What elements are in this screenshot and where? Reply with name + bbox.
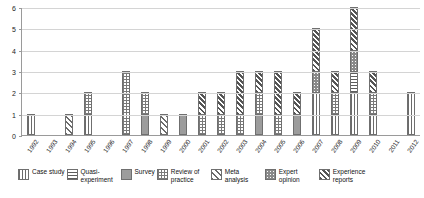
bar-segment: [236, 114, 244, 135]
y-axis: 0123456: [0, 0, 18, 140]
legend-swatch-icon: [265, 169, 276, 180]
bar-segment: [312, 71, 320, 92]
x-tick-label: 1994: [64, 138, 78, 154]
bar-segment: [350, 50, 358, 71]
x-tick-label: 1993: [45, 138, 59, 154]
x-tick-label: 2001: [197, 138, 211, 154]
legend-item-case-study[interactable]: Case study: [18, 168, 65, 180]
chart-legend: Case studyQuasi-experimentSurveyReview o…: [18, 168, 418, 194]
x-tick-label: 1998: [140, 138, 154, 154]
bar-segment: [350, 71, 358, 92]
y-tickmark: [19, 29, 22, 30]
x-tick-label: 2006: [291, 138, 305, 154]
legend-item-experience-reports[interactable]: Experience reports: [319, 168, 377, 183]
x-tick-label: 2011: [387, 138, 401, 153]
legend-item-quasi-experiment[interactable]: Quasi-experiment: [67, 168, 119, 183]
y-tick-label: 6: [12, 5, 16, 12]
bar-segment: [274, 114, 282, 135]
x-tick-label: 1992: [26, 138, 40, 154]
bar-segment: [217, 92, 225, 113]
bar-segment: [141, 92, 149, 113]
y-tickmark: [19, 115, 22, 116]
x-tick-label: 2002: [216, 138, 230, 154]
x-tick-label: 2000: [178, 138, 192, 154]
bar-segment: [369, 114, 377, 135]
bar-stack[interactable]: [122, 71, 130, 135]
gridline: [22, 51, 420, 52]
bar-segment: [122, 71, 130, 135]
bar-segment: [293, 114, 301, 135]
legend-label: Case study: [32, 168, 65, 176]
bar-stack[interactable]: [65, 114, 73, 135]
bar-stack[interactable]: [274, 71, 282, 135]
x-tick-label: 2007: [310, 138, 324, 154]
bar-segment: [141, 114, 149, 135]
x-tick-label: 2012: [405, 138, 419, 154]
legend-item-review-of-practice[interactable]: Review of practice: [157, 168, 209, 183]
bar-segment: [293, 92, 301, 113]
x-tick-label: 1996: [102, 138, 116, 154]
bar-stack[interactable]: [160, 114, 168, 135]
gridline: [22, 8, 420, 9]
bar-stack[interactable]: [27, 114, 35, 135]
bar-segment: [65, 114, 73, 135]
bar-segment: [331, 92, 339, 113]
y-tick-label: 1: [12, 111, 16, 118]
y-tick-label: 2: [12, 90, 16, 97]
bar-segment: [84, 92, 92, 113]
gridline: [22, 72, 420, 73]
bar-segment: [179, 114, 187, 135]
stacked-bar-chart: 0123456 19921993199419951996199719981999…: [0, 0, 424, 198]
x-tick-label: 1997: [121, 138, 135, 154]
bar-segment: [255, 92, 263, 113]
bar-stack[interactable]: [236, 71, 244, 135]
legend-item-meta-analysis[interactable]: Meta analysis: [211, 168, 263, 183]
bar-segment: [255, 71, 263, 92]
bar-segment: [255, 114, 263, 135]
legend-swatch-icon: [67, 169, 78, 180]
bar-segment: [198, 114, 206, 135]
x-tick-label: 2010: [367, 138, 381, 154]
x-tick-label: 2004: [254, 138, 268, 154]
legend-swatch-icon: [157, 169, 168, 180]
x-tick-label: 2008: [329, 138, 343, 154]
y-tickmark: [19, 72, 22, 73]
legend-swatch-icon: [211, 169, 222, 180]
legend-item-survey[interactable]: Survey: [121, 168, 155, 180]
legend-swatch-icon: [121, 169, 132, 180]
x-tick-label: 1999: [159, 138, 173, 154]
legend-label: Meta analysis: [225, 168, 263, 183]
plot-area: 0123456 19921993199419951996199719981999…: [0, 0, 424, 150]
bar-stack[interactable]: [179, 114, 187, 135]
legend-label: Expert opinion: [279, 168, 317, 183]
bar-stack[interactable]: [369, 71, 377, 135]
legend-label: Quasi-experiment: [81, 168, 119, 183]
bar-stack[interactable]: [312, 28, 320, 135]
bar-segment: [27, 114, 35, 135]
legend-swatch-icon: [18, 169, 29, 180]
bar-segment: [331, 71, 339, 92]
legend-label: Survey: [135, 168, 155, 176]
x-tick-label: 1995: [83, 138, 97, 154]
x-axis: 1992199319941995199619971998199920002001…: [0, 138, 424, 172]
y-tickmark: [19, 8, 22, 9]
bar-segment: [369, 92, 377, 113]
y-tickmark: [19, 93, 22, 94]
x-tick-label: 2003: [235, 138, 249, 154]
gridline: [22, 115, 420, 116]
bar-segment: [369, 71, 377, 92]
gridline: [22, 29, 420, 30]
bar-stack[interactable]: [331, 71, 339, 135]
legend-item-expert-opinion[interactable]: Expert opinion: [265, 168, 317, 183]
y-tick-label: 5: [12, 26, 16, 33]
y-tick-label: 3: [12, 69, 16, 76]
bar-segment: [160, 114, 168, 135]
grid-area: [21, 8, 420, 136]
bar-segment: [198, 92, 206, 113]
y-tickmark: [19, 136, 22, 137]
bar-stack[interactable]: [255, 71, 263, 135]
x-tick-label: 2009: [348, 138, 362, 154]
bar-segment: [217, 114, 225, 135]
legend-label: Experience reports: [333, 168, 377, 183]
legend-label: Review of practice: [171, 168, 209, 183]
